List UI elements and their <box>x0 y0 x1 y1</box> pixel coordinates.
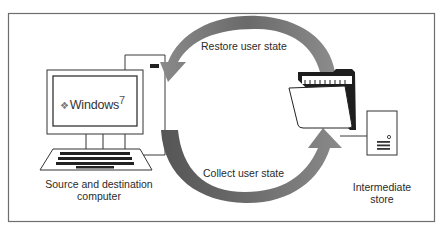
windows-flag-icon: ❖ <box>60 100 69 111</box>
windows-logo-text: Windows <box>70 98 119 112</box>
open-folder-icon <box>289 69 356 130</box>
windows-logo-version: 7 <box>119 94 125 106</box>
desktop-computer-icon <box>40 70 152 170</box>
collect-arrow <box>161 128 342 203</box>
restore-arrow-label: Restore user state <box>201 40 287 52</box>
windows-logo: ❖Windows7 <box>60 94 125 112</box>
store-label-line1: Intermediate <box>342 181 422 193</box>
store-label: Intermediate store <box>342 181 422 205</box>
computer-label: Source and destination computer <box>34 178 164 202</box>
collect-arrow-label: Collect user state <box>203 167 284 179</box>
computer-label-line1: Source and destination <box>34 178 164 190</box>
diagram-canvas: ❖Windows7 Restore user state Collect use… <box>0 0 442 231</box>
server-tower-icon <box>367 111 397 155</box>
computer-label-line2: computer <box>34 190 164 202</box>
store-label-line2: store <box>342 193 422 205</box>
